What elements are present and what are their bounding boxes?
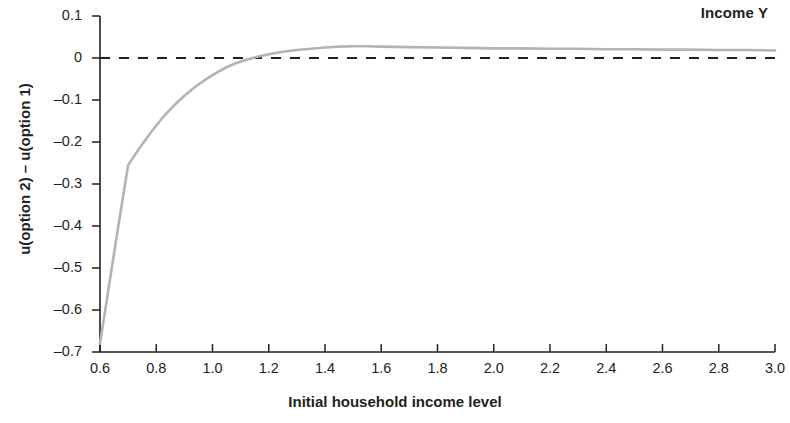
y-tick-label-6: –0.5	[22, 259, 82, 275]
x-tick-label-2: 1.0	[183, 360, 243, 376]
x-tick-label-10: 2.6	[633, 360, 693, 376]
y-tick-label-2: –0.1	[22, 91, 82, 107]
y-tick-label-8: –0.7	[22, 343, 82, 359]
x-axis-title: Initial household income level	[0, 393, 790, 410]
y-tick-label-5: –0.4	[22, 217, 82, 233]
x-tick-label-6: 1.8	[408, 360, 468, 376]
x-tick-label-9: 2.4	[576, 360, 636, 376]
x-tick-label-12: 3.0	[745, 360, 790, 376]
y-tick-label-7: –0.6	[22, 301, 82, 317]
y-tick-label-1: 0	[22, 49, 82, 65]
x-axis-ticks	[100, 344, 775, 352]
data-curve	[100, 46, 775, 343]
y-tick-label-0: 0.1	[22, 7, 82, 23]
chart-annotation-income: Income Y	[701, 4, 768, 21]
y-tick-label-4: –0.3	[22, 175, 82, 191]
chart-figure: Income Y u(option 2) – u(option 1) Initi…	[0, 0, 790, 423]
x-tick-label-11: 2.8	[689, 360, 749, 376]
x-tick-label-0: 0.6	[70, 360, 130, 376]
x-tick-label-8: 2.2	[520, 360, 580, 376]
x-tick-label-1: 0.8	[126, 360, 186, 376]
x-tick-label-5: 1.6	[351, 360, 411, 376]
x-tick-label-4: 1.4	[295, 360, 355, 376]
y-axis-ticks	[92, 16, 100, 352]
x-tick-label-7: 2.0	[464, 360, 524, 376]
y-tick-label-3: –0.2	[22, 133, 82, 149]
x-tick-label-3: 1.2	[239, 360, 299, 376]
